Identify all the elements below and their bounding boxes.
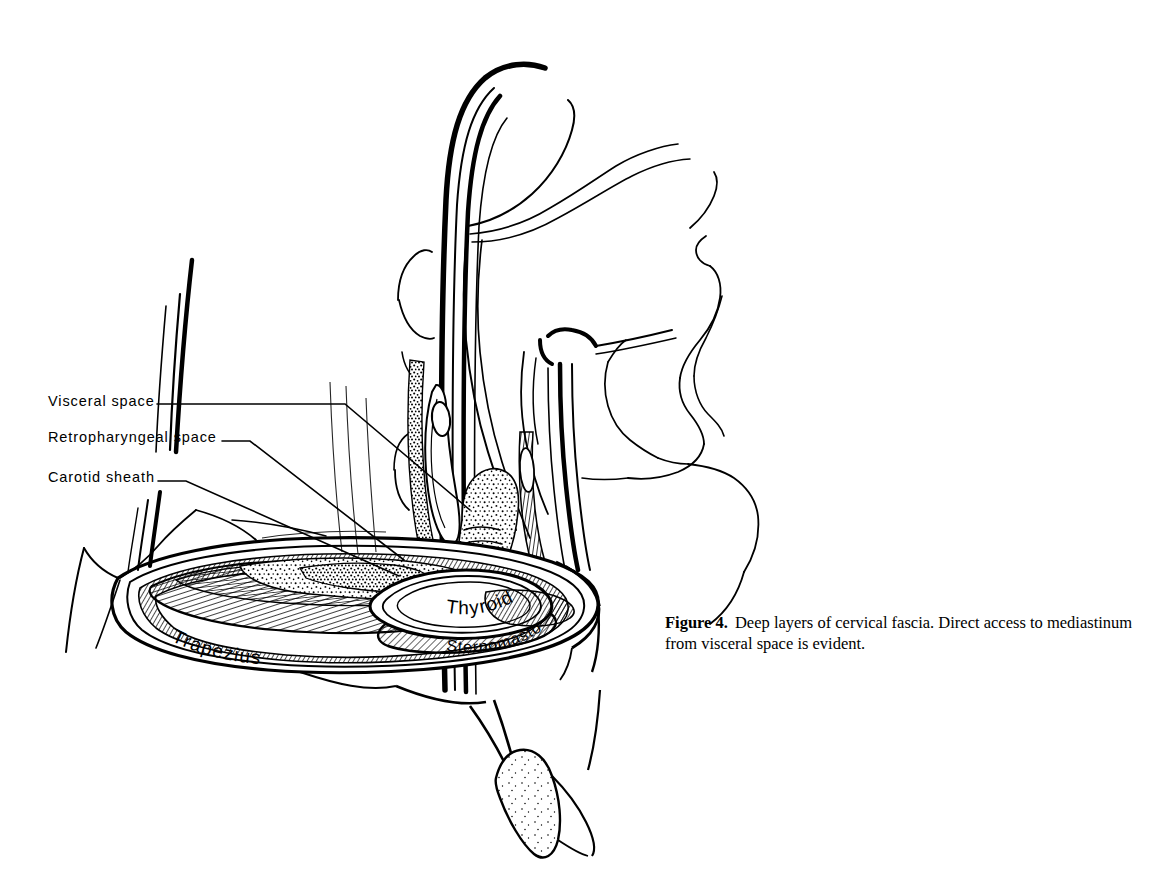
figure-caption-text: Deep layers of cervical fascia. Direct a…	[665, 613, 1132, 653]
figure-number: Figure 4.	[665, 613, 728, 632]
figure-caption: Figure 4.Deep layers of cervical fascia.…	[665, 612, 1135, 654]
label-retropharyngeal-space: Retropharyngeal space	[48, 430, 217, 445]
figure-plate: Trapezius Thyroid Sternomastoid	[0, 0, 1175, 887]
label-visceral-space: Visceral space	[48, 394, 155, 409]
label-carotid-sheath: Carotid sheath	[48, 470, 155, 485]
